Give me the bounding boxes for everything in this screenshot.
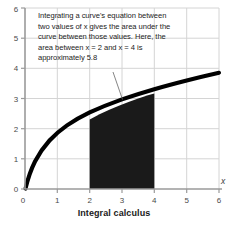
y-tick-label-3: 3: [14, 95, 19, 104]
x-axis-tick-labels: 0 1 2 3 4 5 6: [21, 196, 222, 205]
x-tick-label-4: 4: [152, 196, 157, 205]
integral-calculus-figure: 0 1 2 3 4 5 6 0 1 2 3 4 5 6 x Integratin…: [0, 0, 228, 227]
annotation-line-4: area between x = 2 and x = 4 is: [38, 43, 190, 54]
y-axis-tick-labels: 0 1 2 3 4 5 6: [14, 5, 19, 195]
y-tick-label-1: 1: [14, 155, 19, 164]
annotation-line-1: Integrating a curve's equation between: [38, 11, 190, 22]
x-tick-label-0: 0: [21, 196, 26, 205]
y-tick-label-4: 4: [14, 64, 19, 73]
x-tick-label-1: 1: [55, 196, 60, 205]
annotation-line-2: two values of x gives the area under the: [38, 22, 190, 33]
annotation-line-3: curve between those values. Here, the: [38, 32, 190, 43]
x-tick-label-6: 6: [217, 196, 222, 205]
x-tick-label-3: 3: [120, 196, 125, 205]
x-tick-label-2: 2: [87, 196, 92, 205]
y-tick-label-6: 6: [14, 5, 19, 14]
y-tick-label-2: 2: [14, 125, 19, 134]
annotation-text: Integrating a curve's equation between t…: [38, 11, 190, 64]
y-tick-label-5: 5: [14, 34, 19, 43]
y-tick-label-0: 0: [14, 185, 19, 194]
annotation-leader-line: [113, 72, 123, 100]
annotation-line-5: approximately 5.8: [38, 53, 190, 64]
x-axis-label: x: [220, 176, 226, 186]
x-tick-label-5: 5: [184, 196, 189, 205]
figure-caption: Integral calculus: [0, 208, 228, 218]
